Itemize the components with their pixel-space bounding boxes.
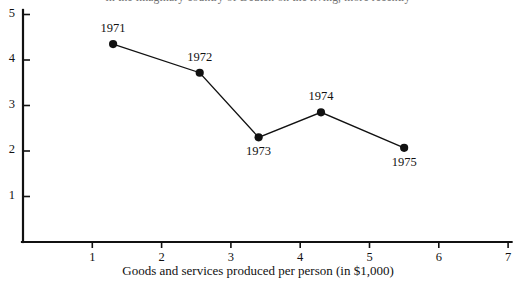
axes xyxy=(22,10,512,242)
y-tick-label: 4 xyxy=(0,51,15,66)
point-label-1971: 1971 xyxy=(83,21,143,36)
y-tick-label: 2 xyxy=(0,142,15,157)
x-axis-title: Goods and services produced per person (… xyxy=(0,263,516,279)
point-label-1974: 1974 xyxy=(291,89,351,104)
data-markers xyxy=(109,40,408,152)
y-tick-label: 5 xyxy=(0,6,15,21)
data-line xyxy=(113,44,404,148)
y-tick-label: 3 xyxy=(0,97,15,112)
line-chart-figure: in the imaginary country of Deuten on th… xyxy=(0,0,516,283)
tick-marks xyxy=(23,15,508,249)
point-label-1973: 1973 xyxy=(229,144,289,159)
point-label-1972: 1972 xyxy=(170,50,230,65)
y-tick-label: 1 xyxy=(0,188,15,203)
point-label-1975: 1975 xyxy=(374,155,434,170)
plot-canvas xyxy=(0,0,516,283)
